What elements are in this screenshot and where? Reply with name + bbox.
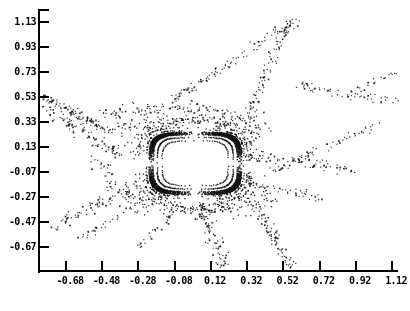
y-tick-label: 0.93 <box>0 41 36 53</box>
phase-plot-canvas <box>0 0 410 311</box>
y-tick-label: -0.47 <box>0 216 36 228</box>
x-tick-label: 0.32 <box>233 275 269 287</box>
x-tick-label: -0.08 <box>161 275 197 287</box>
x-tick-label: 0.92 <box>342 275 378 287</box>
x-tick-label: 0.72 <box>306 275 342 287</box>
x-tick-label: -0.28 <box>124 275 160 287</box>
y-tick-label: 0.13 <box>0 141 36 153</box>
y-tick-label: -0.67 <box>0 241 36 253</box>
phase-portrait-chart: 1.130.930.730.530.330.13-0.07-0.27-0.47-… <box>0 0 410 311</box>
x-tick-label: -0.68 <box>52 275 88 287</box>
y-tick-label: -0.27 <box>0 191 36 203</box>
x-tick-label: 0.52 <box>269 275 305 287</box>
y-tick-label: -0.07 <box>0 166 36 178</box>
x-tick-label: 0.12 <box>197 275 233 287</box>
x-tick-label: 1.12 <box>378 275 410 287</box>
y-tick-label: 0.53 <box>0 91 36 103</box>
y-tick-label: 0.33 <box>0 116 36 128</box>
x-tick-label: -0.48 <box>88 275 124 287</box>
y-tick-label: 1.13 <box>0 16 36 28</box>
y-tick-label: 0.73 <box>0 66 36 78</box>
